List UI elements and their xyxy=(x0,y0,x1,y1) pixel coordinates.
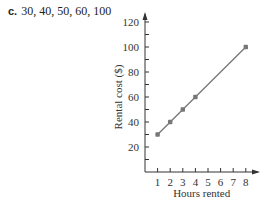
data-point xyxy=(244,45,248,49)
y-tick-label: 120 xyxy=(123,16,140,28)
data-point xyxy=(181,107,185,111)
x-axis-title: Hours rented xyxy=(173,187,231,199)
y-axis-arrow-icon xyxy=(143,12,148,20)
data-point xyxy=(193,95,197,99)
y-tick-label: 80 xyxy=(128,66,140,78)
data-point xyxy=(155,132,159,136)
y-tick-label: 60 xyxy=(128,91,140,103)
y-axis-title: Rental cost ($) xyxy=(112,64,125,129)
x-tick-label: 1 xyxy=(155,176,161,188)
x-tick-label: 2 xyxy=(167,176,173,188)
x-axis-arrow-icon xyxy=(252,170,260,175)
x-tick-label: 8 xyxy=(243,176,249,188)
y-tick-label: 100 xyxy=(123,41,140,53)
data-point xyxy=(168,120,172,124)
y-tick-label: 20 xyxy=(128,141,140,153)
y-tick-label: 40 xyxy=(128,116,140,128)
x-tick-label: 7 xyxy=(230,176,236,188)
line-chart: 2040608010012012345678Hours rentedRental… xyxy=(0,0,262,201)
